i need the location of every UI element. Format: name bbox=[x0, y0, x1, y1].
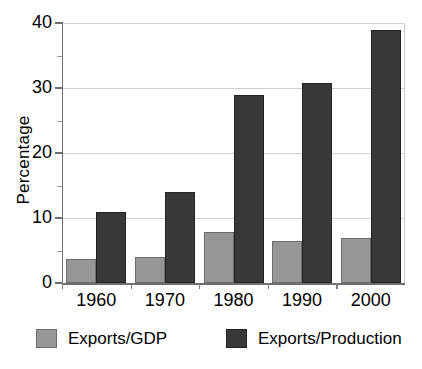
legend-item-exports-production[interactable]: Exports/Production bbox=[226, 325, 402, 351]
x-tick-label-2000: 2000 bbox=[336, 289, 406, 311]
chart-title-remnant bbox=[0, 0, 422, 5]
y-tick-20 bbox=[55, 152, 63, 153]
x-tick-label-1980: 1980 bbox=[199, 289, 269, 311]
bar-chart-figure: Percentage 010203040 1960197019801990200… bbox=[0, 0, 422, 369]
y-tick-30 bbox=[55, 87, 63, 88]
chart-legend: Exports/GDPExports/Production bbox=[0, 325, 422, 355]
x-tick-label-1970: 1970 bbox=[130, 289, 200, 311]
bar-1960-exports-production bbox=[96, 212, 126, 284]
bar-1980-exports-gdp bbox=[204, 232, 234, 283]
y-tick-label-10: 10 bbox=[0, 208, 52, 226]
x-axis-line bbox=[62, 283, 405, 285]
bar-1990-exports-production bbox=[302, 83, 332, 283]
legend-swatch-icon bbox=[36, 329, 57, 348]
bar-1970-exports-production bbox=[165, 192, 195, 283]
legend-label: Exports/GDP bbox=[68, 329, 167, 348]
y-tick-10 bbox=[55, 217, 63, 218]
y-tick-label-40: 40 bbox=[0, 13, 52, 31]
bar-1980-exports-production bbox=[234, 95, 264, 284]
gridline-30 bbox=[62, 88, 405, 89]
bar-2000-exports-production bbox=[371, 30, 401, 284]
y-tick-label-20: 20 bbox=[0, 143, 52, 161]
legend-item-exports-gdp[interactable]: Exports/GDP bbox=[36, 325, 167, 351]
gridline-40 bbox=[62, 23, 405, 24]
legend-label: Exports/Production bbox=[258, 329, 402, 348]
y-tick-minor-5 bbox=[57, 251, 62, 252]
y-tick-minor-35 bbox=[57, 56, 62, 57]
legend-swatch-icon bbox=[226, 329, 247, 348]
bar-1970-exports-gdp bbox=[135, 257, 165, 283]
y-tick-label-30: 30 bbox=[0, 78, 52, 96]
y-tick-40 bbox=[55, 22, 63, 23]
x-tick-label-1990: 1990 bbox=[267, 289, 337, 311]
y-tick-minor-25 bbox=[57, 121, 62, 122]
bar-2000-exports-gdp bbox=[341, 238, 371, 284]
y-tick-label-0: 0 bbox=[0, 273, 52, 291]
bar-1960-exports-gdp bbox=[66, 259, 96, 283]
bar-1990-exports-gdp bbox=[272, 241, 302, 283]
y-tick-minor-15 bbox=[57, 186, 62, 187]
x-tick-label-1960: 1960 bbox=[61, 289, 131, 311]
